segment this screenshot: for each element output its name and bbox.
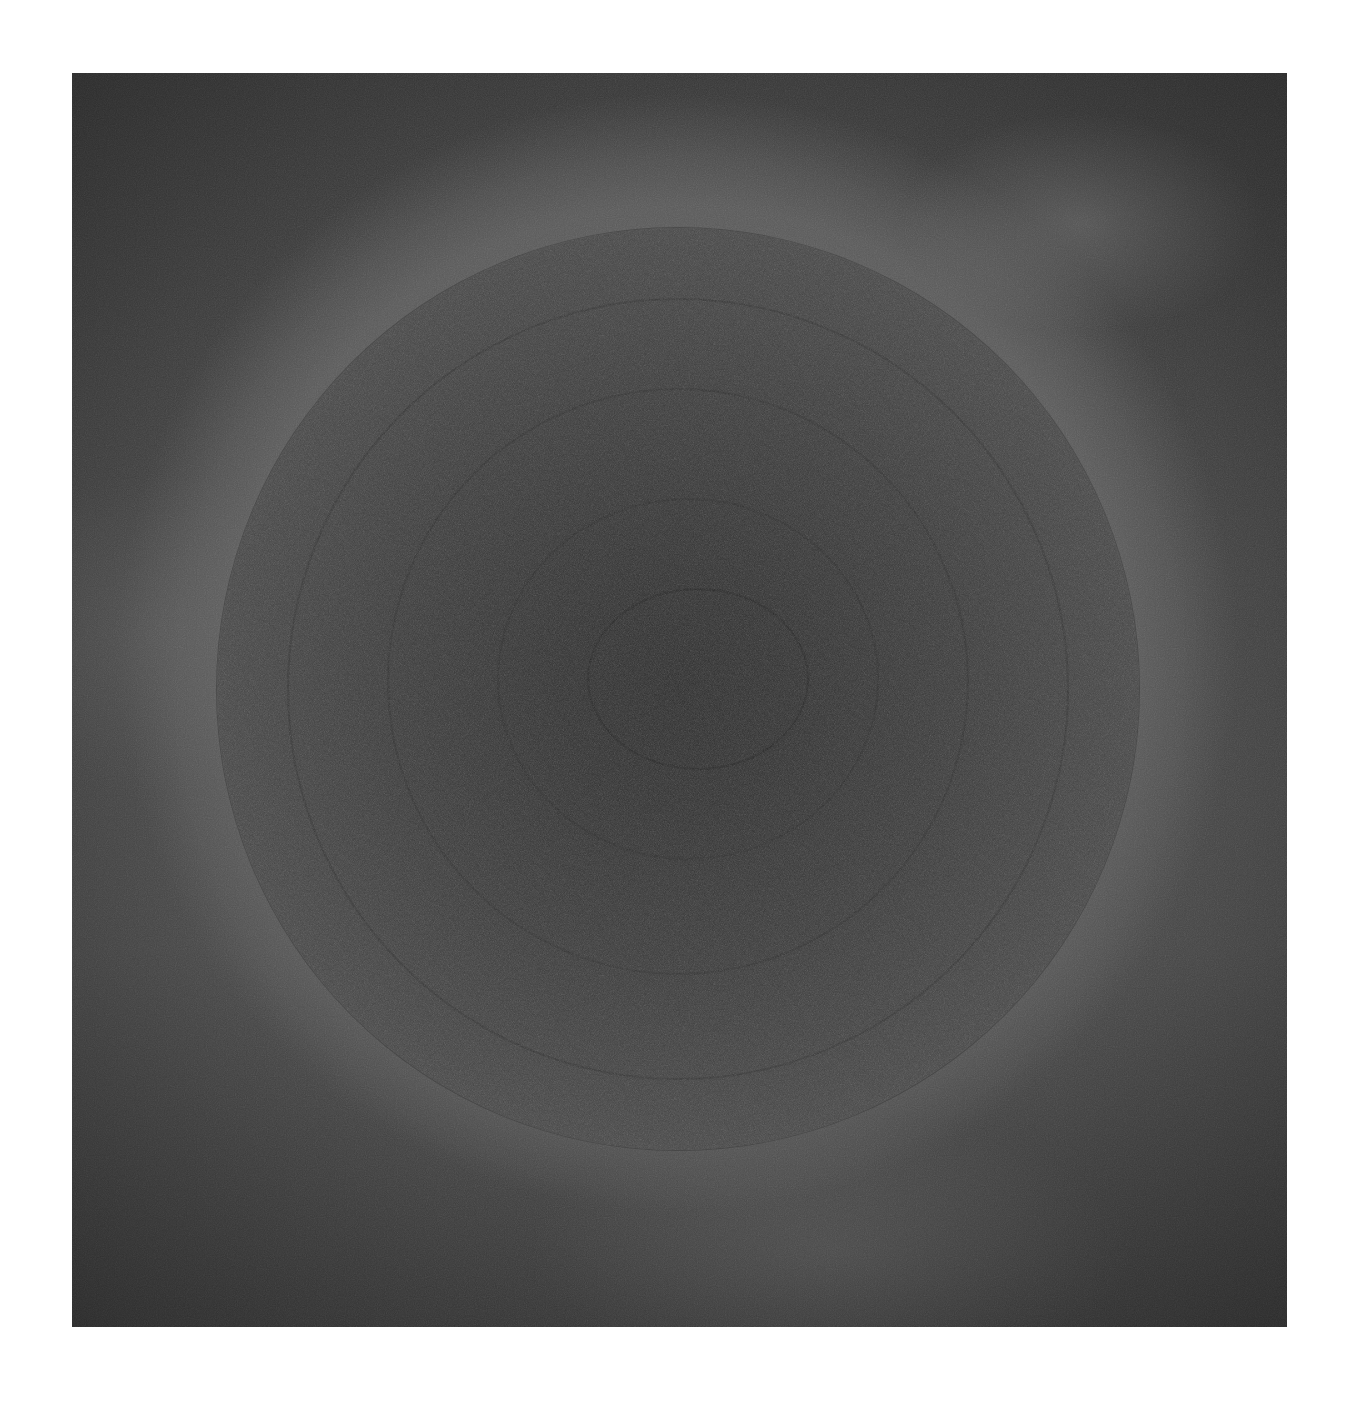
artwork-canvas xyxy=(72,73,1287,1327)
central-circle xyxy=(217,228,1139,1150)
circle-texture xyxy=(217,228,1139,1150)
